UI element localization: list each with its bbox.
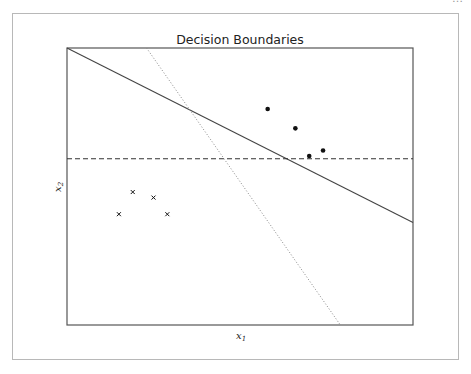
axes-box <box>67 48 413 325</box>
boundary-dotted-line <box>147 48 341 325</box>
x-axis-label: x1 <box>236 330 246 343</box>
decision-boundaries <box>67 48 413 325</box>
x-marker <box>117 212 121 216</box>
chart: Decision Boundaries x1 x2 <box>0 0 471 374</box>
chart-title: Decision Boundaries <box>176 32 304 47</box>
x-marker <box>165 212 169 216</box>
dot-marker <box>293 126 298 131</box>
data-points <box>117 107 325 217</box>
x-marker <box>152 196 156 200</box>
x-marker <box>131 190 135 194</box>
y-axis-label: x2 <box>52 181 65 192</box>
boundary-solid-line <box>67 48 413 223</box>
dot-marker <box>321 148 326 153</box>
dot-marker <box>307 154 312 159</box>
dot-marker <box>265 107 270 112</box>
